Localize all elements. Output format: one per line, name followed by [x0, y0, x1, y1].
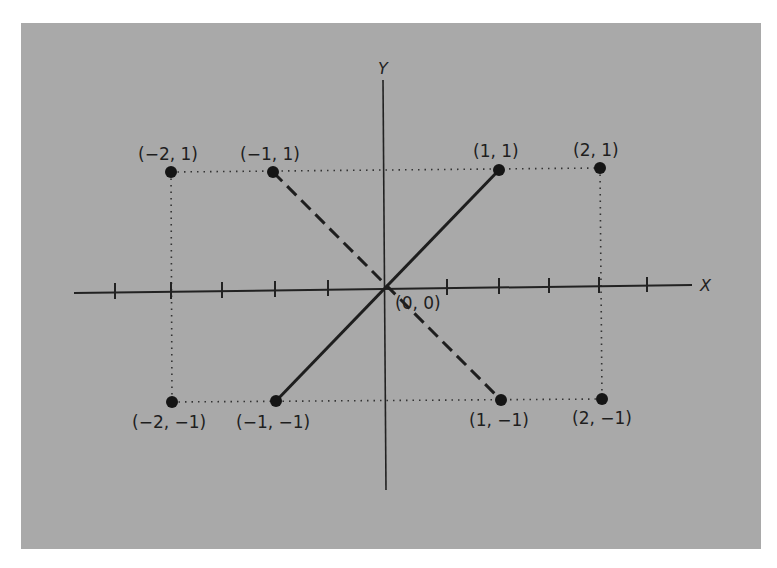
- label-1-neg1: (1, −1): [469, 410, 529, 430]
- label-1-1: (1, 1): [473, 141, 519, 161]
- label-2-1: (2, 1): [573, 140, 619, 160]
- label-neg1-1: (−1, 1): [240, 144, 300, 164]
- label-2-neg1: (2, −1): [572, 408, 632, 428]
- y-axis: [383, 80, 386, 490]
- point-1-1: [493, 164, 505, 176]
- x-axis: [74, 277, 692, 299]
- point-1-neg1: [495, 394, 507, 406]
- x-axis-label: X: [699, 276, 712, 295]
- point-neg1-neg1: [270, 395, 282, 407]
- point-neg2-1: [165, 166, 177, 178]
- y-axis-label: Y: [378, 59, 389, 78]
- point-neg1-1: [267, 166, 279, 178]
- origin-label: (0, 0): [395, 293, 441, 313]
- point-neg2-neg1: [166, 396, 178, 408]
- coordinate-plane-diagram: X Y (−2, 1) (−1, 1) (1, 1) (2, 1) (−2, −…: [0, 0, 777, 568]
- label-neg1-neg1: (−1, −1): [236, 412, 310, 432]
- label-neg2-neg1: (−2, −1): [132, 412, 206, 432]
- point-2-neg1: [596, 393, 608, 405]
- point-2-1: [594, 162, 606, 174]
- label-neg2-1: (−2, 1): [138, 144, 198, 164]
- dashed-segment: [273, 172, 501, 400]
